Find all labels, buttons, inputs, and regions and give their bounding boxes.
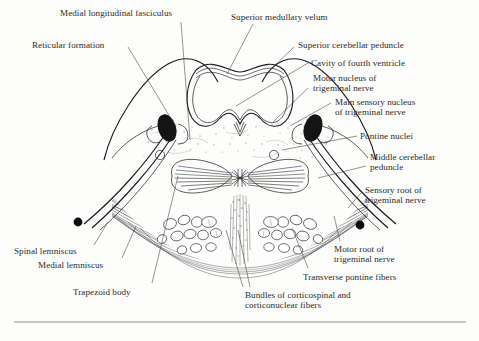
leader-cavity-of-fourth-ventricle	[236, 63, 308, 106]
label-trapezoid-body: Trapezoid body	[73, 287, 131, 297]
label-superior-medullary-velum: Superior medullary velum	[231, 12, 328, 22]
label-superior-cerebellar-peduncle: Superior cerebellar peduncle	[298, 40, 404, 50]
right-nerve-root-dot	[356, 221, 365, 230]
pontine-raphe	[230, 194, 250, 266]
left-trigeminal-nucleus	[154, 112, 180, 144]
label-motor-root-of-trigeminal-nerve: Motor root of trigeminal nerve	[334, 244, 395, 264]
leader-motor-nucleus	[273, 88, 308, 122]
label-spinal-lemniscus: Spinal lemniscus	[14, 246, 77, 256]
leader-trapezoid-body	[152, 176, 178, 283]
leader-medial-lemniscus	[122, 226, 136, 258]
label-cavity-of-fourth-ventricle: Cavity of fourth ventricle	[311, 58, 405, 68]
label-reticular-formation: Reticular formation	[32, 40, 104, 50]
label-medial-longitudinal-fasciculus: Medial longitudinal fasciculus	[60, 8, 172, 18]
right-trigeminal-nucleus	[300, 112, 326, 144]
leader-superior-medullary-velum	[227, 24, 253, 74]
leader-middle-cerebellar-peduncle	[318, 166, 366, 178]
label-pontine-nuclei: Pontine nuclei	[360, 131, 413, 141]
leader-bundles-a	[226, 230, 243, 287]
left-inner-contour	[112, 124, 166, 158]
leader-reticular-formation	[128, 47, 176, 127]
label-bundles-of-corticospinal-and-corticonuclear-fibers: Bundles of corticospinal and corticonucl…	[245, 290, 351, 310]
leader-medial-longitudinal-fasciculus	[181, 22, 190, 140]
label-transverse-pontine-fibers: Transverse pontine fibers	[303, 272, 396, 282]
leader-spinal-lemniscus	[94, 222, 108, 245]
label-sensory-root-of-trigeminal-nerve: Sensory root of trigeminal nerve	[365, 185, 426, 205]
left-nerve-root-dot	[74, 218, 83, 227]
fourth-ventricle	[187, 64, 293, 136]
medial-lemniscus-band	[171, 159, 308, 193]
leader-pontine-nuclei	[282, 136, 357, 150]
label-middle-cerebellar-peduncle: Middle cerebellar peduncle	[370, 152, 435, 172]
label-main-sensory-nucleus-of-trigeminal-nerve: Main sensory nucleus of trigeminal nerve	[335, 97, 415, 117]
left-peduncle-outline	[104, 59, 218, 160]
label-medial-lemniscus: Medial lemniscus	[38, 260, 103, 270]
label-motor-nucleus-of-trigeminal-nerve: Motor nucleus of trigeminal nerve	[313, 73, 376, 93]
